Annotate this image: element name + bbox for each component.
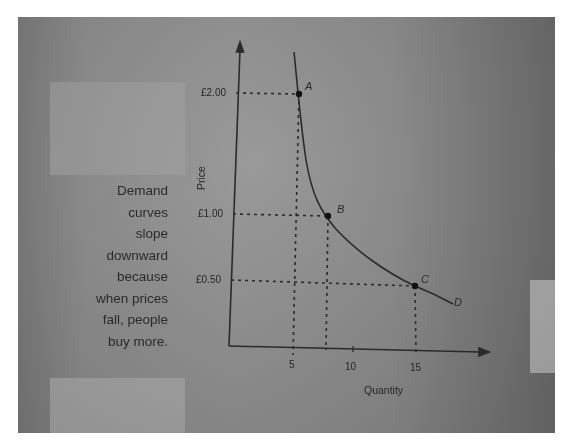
point-a-label: A	[304, 80, 312, 92]
x-axis-arrow-icon	[479, 348, 489, 356]
demand-curve	[294, 52, 453, 304]
demand-chart: A B C D £2.00 £1.00 £0.50 5 10 15 Price …	[0, 0, 571, 445]
y-tick-0-50: £0.50	[196, 274, 221, 285]
x-tick-10: 10	[345, 361, 357, 372]
point-c-label: C	[421, 273, 429, 285]
point-b-label: B	[337, 203, 344, 215]
x-tick-5: 5	[289, 359, 295, 370]
y-tick-1-00: £1.00	[198, 208, 223, 219]
x-tick-15: 15	[410, 362, 422, 373]
y-axis-title: Price	[195, 166, 207, 190]
y-axis	[229, 42, 244, 346]
point-c-marker	[412, 283, 418, 289]
point-b-marker	[325, 213, 331, 219]
point-a-marker	[296, 91, 302, 97]
guide-lines	[231, 93, 416, 355]
y-tick-2-00: £2.00	[201, 87, 226, 98]
curve-d-label: D	[454, 296, 462, 308]
x-axis-title: Quantity	[364, 384, 404, 396]
x-axis	[229, 346, 489, 356]
y-axis-arrow-icon	[237, 42, 244, 52]
